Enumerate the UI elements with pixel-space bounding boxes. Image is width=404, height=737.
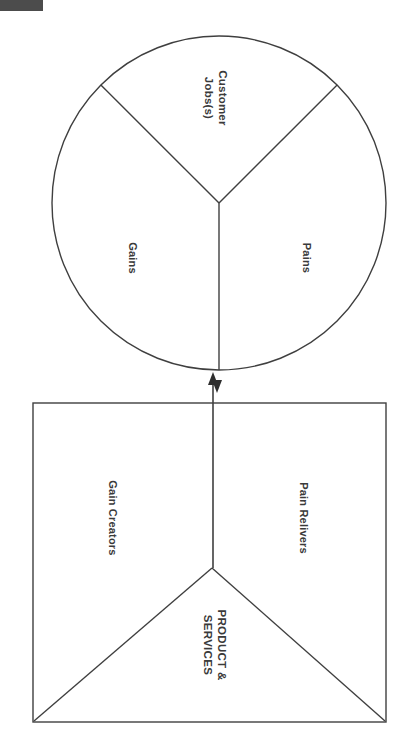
diagram-canvas: [0, 0, 404, 737]
square-divider-lower-left: [34, 568, 212, 721]
circle-divider-upper-right: [219, 85, 337, 203]
square-divider-lower-right: [212, 568, 385, 721]
circle-divider-upper-left: [101, 85, 219, 203]
value-proposition-canvas: Customer Jobs(s) Gains Pains Gain Creato…: [0, 0, 404, 737]
